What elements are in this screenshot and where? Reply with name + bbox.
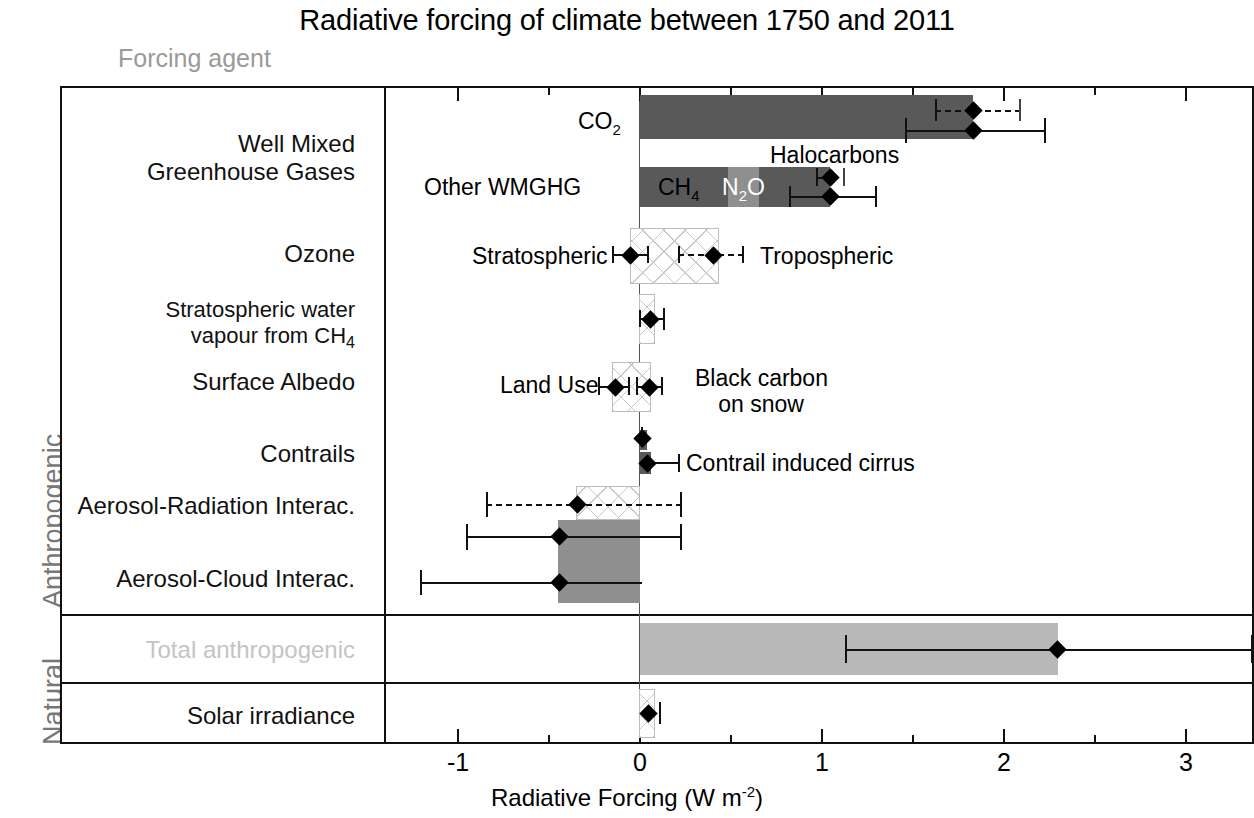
errorbar-ozone-trop-cap-high: [742, 246, 744, 263]
tick-top-neg1: [457, 86, 459, 101]
row-label-surface-albedo: Surface Albedo: [55, 368, 355, 396]
errorbar-solar-cap-high: [659, 702, 661, 724]
tick-top-25: [1094, 86, 1096, 95]
errorbar-aerosol-radiation-lower: [466, 536, 682, 538]
label-column-divider: [384, 86, 386, 744]
annotation-halocarbons: Halocarbons: [770, 142, 899, 169]
tick-bottom-1: [821, 729, 823, 744]
row-label-ozone: Ozone: [55, 240, 355, 268]
errorbar-wmghg-upper-cap-low: [816, 168, 818, 186]
annotation-other-wmghg: Other WMGHG: [424, 174, 581, 201]
annotation-ch4: CH4: [658, 174, 700, 204]
row-label-aerosol-radiation: Aerosol-Radiation Interac.: [55, 492, 355, 520]
errorbar-total-anthropogenic-cap-high: [1251, 635, 1253, 663]
errorbar-aerosol-cloud: [420, 582, 642, 584]
tick-top-3: [1185, 86, 1187, 101]
errorbar-wmghg-upper-cap-high: [843, 168, 845, 186]
row-label-wmghg-line2: Greenhouse Gases: [55, 158, 355, 186]
row-label-strat-water-line2: vapour from CH4: [55, 323, 355, 353]
annotation-black-carbon-line1: Black carbon: [695, 366, 827, 392]
tick-top-05: [730, 86, 732, 95]
row-separator-natural: [60, 682, 1254, 684]
xtick-label-2: 2: [974, 748, 1034, 777]
errorbar-land-use-cap-low: [598, 377, 600, 395]
row-label-contrails: Contrails: [55, 440, 355, 468]
tick-bottom-15: [912, 735, 914, 744]
row-label-wmghg: Well Mixed Greenhouse Gases: [55, 130, 355, 186]
tick-top-neg05: [548, 86, 550, 95]
row-separator-total: [60, 614, 1254, 616]
x-axis-title-main: Radiative Forcing (W m: [491, 784, 742, 811]
tick-top-2: [1003, 86, 1005, 101]
x-axis-title-close: ): [755, 784, 763, 811]
x-axis-title-exponent: -2: [742, 783, 755, 800]
errorbar-ozone-strat-cap-high: [647, 246, 649, 263]
tick-bottom-2: [1003, 729, 1005, 744]
errorbar-contrail-cirrus-cap-high: [678, 454, 680, 472]
errorbar-black-carbon-cap-high: [661, 377, 663, 395]
xtick-label-3: 3: [1156, 748, 1216, 777]
annotation-black-carbon-on-snow: Black carbon on snow: [695, 366, 827, 418]
errorbar-co2-upper-cap-low: [935, 99, 937, 121]
annotation-n2o: N2O: [722, 174, 765, 204]
xtick-label-1: 1: [792, 748, 852, 777]
annotation-black-carbon-line2: on snow: [695, 392, 827, 418]
forcing-agent-axis-label: Forcing agent: [118, 44, 271, 73]
xtick-label-0: 0: [610, 748, 670, 777]
errorbar-ozone-trop-cap-low: [678, 246, 680, 263]
annotation-land-use: Land Use: [500, 372, 598, 399]
errorbar-aerosol-cloud-cap-low: [420, 570, 422, 595]
errorbar-black-carbon-cap-low: [636, 377, 638, 395]
tick-bottom-25: [1094, 735, 1096, 744]
annotation-contrail-induced-cirrus: Contrail induced cirrus: [686, 450, 915, 477]
errorbar-wmghg-lower-cap-low: [789, 186, 791, 207]
annotation-tropospheric: Tropospheric: [760, 243, 893, 270]
row-label-wmghg-line1: Well Mixed: [55, 130, 355, 158]
errorbar-ozone-strat-cap-low: [612, 246, 614, 263]
bar-aerosol-cloud: [558, 551, 640, 603]
tick-top-15: [912, 86, 914, 95]
row-label-aerosol-cloud: Aerosol-Cloud Interac.: [55, 565, 355, 593]
annotation-stratospheric: Stratospheric: [472, 243, 608, 270]
tick-bottom-neg1: [457, 729, 459, 744]
bar-halocarbons: [759, 167, 830, 207]
row-label-total-anthropogenic: Total anthropogenic: [55, 636, 355, 664]
tick-bottom-neg05: [548, 735, 550, 744]
errorbar-co2-lower-cap-high: [1044, 118, 1046, 143]
x-axis-title: Radiative Forcing (W m-2): [0, 783, 1254, 812]
errorbar-land-use-cap-high: [628, 377, 630, 395]
errorbar-co2-upper-cap-high: [1019, 99, 1021, 121]
errorbar-aerosol-radiation-lower-cap-high: [680, 524, 682, 550]
bar-co2: [640, 95, 973, 139]
errorbar-total-anthropogenic-cap-low: [845, 635, 847, 663]
annotation-co2: CO2: [578, 108, 621, 138]
row-label-strat-water-line1: Stratospheric water: [55, 297, 355, 323]
row-label-solar-irradiance: Solar irradiance: [55, 702, 355, 730]
tick-bottom-3: [1185, 729, 1187, 744]
chart-canvas: Radiative forcing of climate between 175…: [0, 0, 1254, 818]
xtick-label-neg1: -1: [428, 748, 488, 777]
errorbar-wmghg-lower-cap-high: [875, 186, 877, 207]
errorbar-co2-lower-cap-low: [905, 118, 907, 143]
errorbar-aerosol-radiation-lower-cap-low: [466, 524, 468, 550]
chart-title: Radiative forcing of climate between 175…: [0, 4, 1254, 37]
tick-bottom-05: [730, 735, 732, 744]
row-label-strat-water: Stratospheric water vapour from CH4: [55, 297, 355, 352]
errorbar-aerosol-radiation-upper-cap-high: [680, 492, 682, 517]
errorbar-aerosol-radiation-upper-cap-low: [486, 492, 488, 517]
errorbar-strat-water-cap-high: [663, 308, 665, 330]
